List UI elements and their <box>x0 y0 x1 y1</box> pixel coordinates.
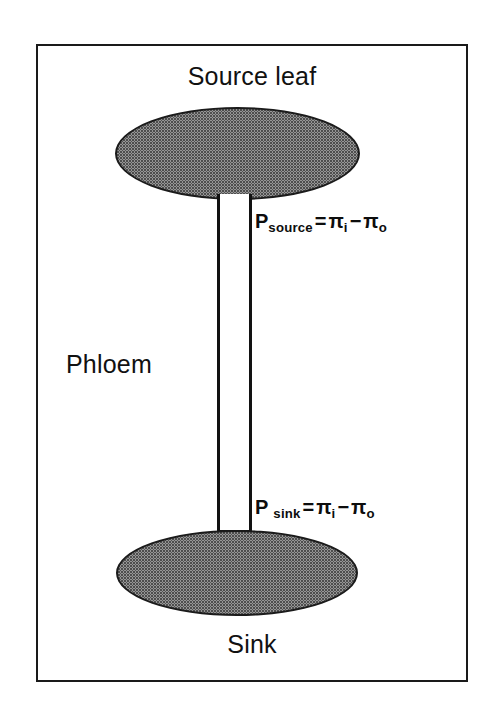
sink-ellipse <box>116 530 358 616</box>
source-osmotic-outside-subscript: o <box>379 220 387 235</box>
source-pressure-symbol: P <box>255 210 268 232</box>
sink-equals-operator: = <box>303 496 315 518</box>
source-leaf-ellipse <box>115 107 360 200</box>
source-minus-operator: − <box>350 210 362 232</box>
sink-pressure-symbol: P <box>255 496 268 518</box>
sink-osmotic-inside-subscript: i <box>332 506 336 521</box>
source-pressure-subscript: source <box>268 220 312 235</box>
sink-osmotic-outside-symbol: π <box>351 496 366 518</box>
source-osmotic-inside-symbol: π <box>328 210 343 232</box>
sink-osmotic-inside-symbol: π <box>316 496 331 518</box>
sink-pressure-equation: Psink=πi−πo <box>255 497 375 520</box>
phloem-tube <box>217 194 252 532</box>
source-osmotic-inside-subscript: i <box>344 220 348 235</box>
sink-pressure-subscript: sink <box>273 506 300 521</box>
sink-label: Sink <box>38 632 466 657</box>
source-osmotic-outside-symbol: π <box>363 210 378 232</box>
source-leaf-label: Source leaf <box>38 64 466 89</box>
figure-frame: Source leaf Phloem Psource=πi−πo Psink=π… <box>36 44 468 682</box>
source-pressure-equation: Psource=πi−πo <box>255 211 387 234</box>
sink-osmotic-outside-subscript: o <box>366 506 374 521</box>
sink-minus-operator: − <box>337 496 349 518</box>
source-equals-operator: = <box>315 210 327 232</box>
phloem-label: Phloem <box>66 352 152 377</box>
